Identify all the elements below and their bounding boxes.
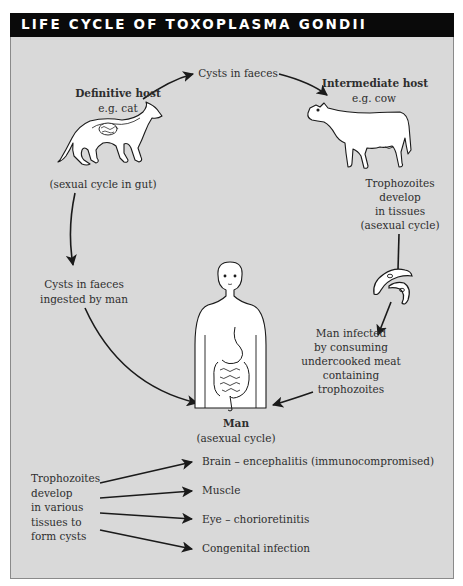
- line: develop: [31, 487, 72, 499]
- man-infected-label: Man infected by consuming undercooked me…: [296, 326, 406, 396]
- line: (asexual cycle): [361, 219, 440, 231]
- trophozoites-illustration: [374, 269, 412, 304]
- arrow-ingested-to-man: [85, 308, 197, 403]
- cow-illustration: [308, 103, 411, 168]
- outcomes-source-label: Trophozoites develop in various tissues …: [31, 471, 111, 544]
- arrow-to-muscle: [100, 491, 192, 498]
- man-note: (asexual cycle): [197, 432, 276, 444]
- line: containing: [323, 369, 379, 381]
- arrow-cysts-to-cow: [279, 74, 327, 95]
- line: trophozoites: [318, 383, 384, 395]
- line: ingested by man: [40, 293, 128, 305]
- outcome-congenital: Congenital infection: [202, 541, 310, 556]
- definitive-host-label: Definitive host e.g. cat: [62, 86, 174, 115]
- man-label: Man (asexual cycle): [188, 416, 284, 445]
- intermediate-host-label: Intermediate host e.g. cow: [322, 76, 426, 105]
- line: form cysts: [31, 530, 86, 542]
- line: undercooked meat: [301, 355, 400, 367]
- trophozoites-develop-label: Trophozoites develop in tissues (asexual…: [352, 176, 448, 232]
- arrow-troph-to-parasite: [398, 234, 399, 270]
- arrow-to-congenital: [100, 530, 192, 549]
- man-illustration: [195, 262, 266, 411]
- line: in tissues: [375, 205, 425, 217]
- line: develop: [379, 191, 420, 203]
- intermediate-host-title: Intermediate host: [322, 77, 428, 89]
- line: Cysts in faeces: [44, 278, 124, 290]
- line: in various: [31, 501, 84, 513]
- line: Trophozoites: [31, 472, 100, 484]
- man-title: Man: [223, 417, 249, 429]
- line: Man infected: [316, 327, 386, 339]
- definitive-host-example: e.g. cat: [98, 102, 137, 114]
- arrow-to-brain: [100, 462, 192, 483]
- outcome-muscle: Muscle: [202, 483, 240, 498]
- sexual-cycle-label: (sexual cycle in gut): [43, 177, 163, 192]
- arrow-gut-to-ingested: [70, 193, 75, 265]
- cysts-ingested-label: Cysts in faeces ingested by man: [36, 277, 132, 306]
- line: by consuming: [314, 341, 388, 353]
- definitive-host-title: Definitive host: [75, 87, 161, 99]
- line: tissues to: [31, 516, 82, 528]
- outcome-eye: Eye – chorioretinitis: [202, 512, 309, 527]
- intermediate-host-example: e.g. cow: [352, 92, 396, 104]
- outcome-brain: Brain – encephalitis (immunocompromised): [202, 454, 434, 469]
- line: Trophozoites: [365, 177, 434, 189]
- cysts-in-faeces-label: Cysts in faeces: [196, 66, 280, 81]
- arrow-to-eye: [100, 513, 192, 519]
